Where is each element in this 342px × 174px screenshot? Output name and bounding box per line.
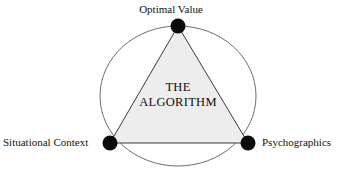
center-label: THE ALGORITHM (128, 80, 228, 109)
node-marker-optimal-value[interactable] (171, 19, 186, 34)
node-label-optimal-value: Optimal Value (0, 3, 342, 16)
node-label-psychographics: Psychographics (262, 136, 331, 149)
node-marker-psychographics[interactable] (241, 136, 256, 151)
center-label-line-2: ALGORITHM (128, 95, 228, 110)
node-marker-situational-context[interactable] (103, 136, 118, 151)
diagram-canvas: THE ALGORITHM Optimal Value Situational … (0, 0, 342, 174)
center-label-line-1: THE (128, 80, 228, 95)
node-label-situational-context: Situational Context (3, 136, 88, 149)
